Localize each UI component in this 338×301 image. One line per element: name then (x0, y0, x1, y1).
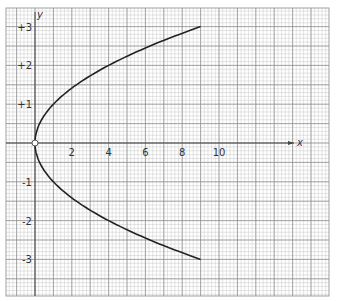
svg-text:-2: -2 (22, 216, 32, 227)
svg-text:-1: -1 (22, 177, 32, 188)
svg-text:6: 6 (142, 147, 148, 158)
parabola-chart: xy 246810+3+2+1-1-2-3 (0, 0, 338, 301)
axes: xy (6, 9, 303, 296)
origin-marker (32, 140, 38, 146)
svg-text:-3: -3 (22, 254, 32, 265)
svg-text:y: y (36, 9, 44, 20)
svg-text:+1: +1 (17, 99, 32, 110)
svg-text:8: 8 (179, 147, 185, 158)
svg-text:2: 2 (69, 147, 75, 158)
svg-text:x: x (296, 137, 303, 148)
svg-text:+2: +2 (17, 60, 32, 71)
svg-text:10: 10 (213, 147, 226, 158)
svg-text:4: 4 (105, 147, 111, 158)
svg-text:+3: +3 (17, 22, 32, 33)
graph-paper-grid (6, 8, 329, 296)
